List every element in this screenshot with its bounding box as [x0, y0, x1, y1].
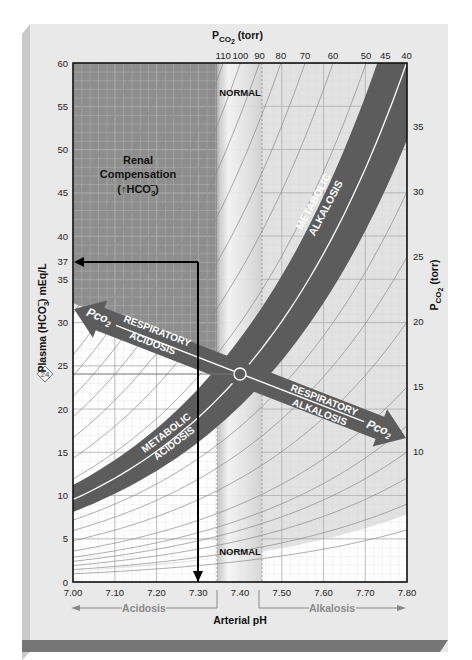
y-tick-label: 35 [57, 274, 68, 285]
x-tick-label: 7.10 [106, 587, 125, 598]
x-tick-label: 7.70 [356, 587, 375, 598]
y-tick-label: 0 [63, 577, 68, 588]
x-tick-label: 7.00 [64, 587, 83, 598]
alkalosis-label: Alkalosis [309, 602, 355, 614]
bottom-axis-ticks: 7.007.107.207.307.407.507.607.707.80 [64, 587, 417, 598]
y2-tick-label: 15 [413, 381, 424, 392]
y-tick-label: 30 [57, 317, 68, 328]
normal-label-top: NORMAL [219, 87, 261, 98]
x-tick-label: 7.50 [273, 587, 292, 598]
x2-tick-label: 90 [254, 50, 265, 61]
y-tick-label: 20 [57, 404, 68, 415]
normal-label-bottom: NORMAL [219, 546, 261, 557]
normal-point-marker [234, 368, 246, 380]
renal-label-2: Compensation [100, 168, 177, 180]
y2-tick-label: 20 [413, 316, 424, 327]
panel-bottom-edge [22, 640, 448, 652]
x2-tick-label: 50 [361, 50, 372, 61]
acidosis-label: Acidosis [122, 602, 166, 614]
y-tick-label: 55 [57, 101, 68, 112]
x2-tick-label: 70 [300, 50, 311, 61]
x2-tick-label: 80 [276, 50, 287, 61]
panel-left-edge [22, 24, 30, 660]
y-tick-label: 37 [57, 256, 68, 267]
davenport-diagram: NORMAL NORMAL Renal Compensation (↑HCO3−… [0, 0, 472, 660]
y-tick-label: 15 [57, 447, 68, 458]
x2-tick-label: 40 [401, 50, 412, 61]
x-tick-label: 7.20 [147, 587, 166, 598]
x-tick-label: 7.80 [398, 587, 417, 598]
y-tick-label: 25 [57, 360, 68, 371]
x-axis-title: Arterial pH [213, 614, 267, 626]
y-tick-label: 5 [63, 533, 68, 544]
y2-tick-label: 25 [413, 251, 424, 262]
renal-label-1: Renal [123, 154, 153, 166]
x2-tick-label: 100 [233, 50, 249, 61]
x2-tick-label: 60 [328, 50, 339, 61]
x-tick-label: 7.60 [314, 587, 333, 598]
y-tick-label: 10 [57, 490, 68, 501]
y-tick-label: 60 [57, 58, 68, 69]
y-tick-label: 50 [57, 144, 68, 155]
x-tick-label: 7.40 [231, 587, 250, 598]
x2-tick-label: 110 [216, 50, 231, 61]
y2-tick-label: 35 [413, 121, 424, 132]
y-tick-label: 45 [57, 187, 68, 198]
y-tick-label: 40 [57, 231, 68, 242]
x2-tick-label: 45 [380, 50, 391, 61]
x-tick-label: 7.30 [189, 587, 208, 598]
y2-tick-label: 30 [413, 186, 424, 197]
y2-tick-label: 10 [413, 446, 424, 457]
